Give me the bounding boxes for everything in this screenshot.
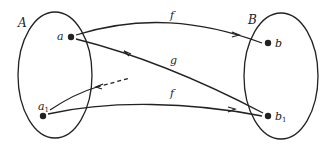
arrow-g-label: g <box>170 54 177 67</box>
dashed-arrow <box>97 78 130 87</box>
point-b1 <box>265 113 271 119</box>
point-a <box>68 34 74 40</box>
arrow-f-bottom-label: f <box>169 87 176 100</box>
arrow-f-top-label: f <box>169 9 176 22</box>
set-a-label: A <box>17 16 27 30</box>
point-a1-label: a1 <box>38 100 49 114</box>
point-b <box>265 40 271 46</box>
set-a-ellipse <box>18 12 92 138</box>
mapping-diagram: A B f g f a a1 b b1 <box>0 0 330 145</box>
point-b1-label: b1 <box>275 110 287 124</box>
point-a-label: a <box>57 30 64 43</box>
set-b-label: B <box>247 13 257 27</box>
point-b-label: b <box>275 37 282 50</box>
arrow-f-a1-to-b1 <box>48 104 262 116</box>
arrow-g-b1-to-a <box>76 39 263 113</box>
